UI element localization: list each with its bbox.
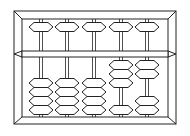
abacus-beads — [29, 23, 159, 115]
bead-lower-down-rod-3 — [82, 97, 106, 106]
bead-lower-up-rod-4 — [109, 79, 133, 88]
bead-upper-rod-5 — [135, 23, 159, 32]
bead-lower-up-rod-4 — [109, 70, 133, 79]
abacus-drawing — [0, 0, 190, 136]
bead-lower-down-rod-2 — [55, 97, 79, 106]
bead-lower-down-rod-4 — [109, 106, 133, 115]
bead-upper-rod-3 — [82, 23, 106, 32]
bead-lower-up-rod-5 — [135, 61, 159, 70]
bead-lower-down-rod-1 — [29, 79, 53, 88]
bead-lower-down-rod-1 — [29, 106, 53, 115]
bead-lower-down-rod-3 — [82, 88, 106, 97]
bead-upper-rod-2 — [55, 23, 79, 32]
bead-lower-down-rod-2 — [55, 79, 79, 88]
abacus-diagram — [0, 0, 190, 136]
bead-lower-down-rod-5 — [135, 106, 159, 115]
bead-lower-down-rod-1 — [29, 97, 53, 106]
bead-lower-up-rod-5 — [135, 70, 159, 79]
bead-upper-rod-1 — [29, 23, 53, 32]
bead-lower-down-rod-3 — [82, 79, 106, 88]
bead-lower-down-rod-2 — [55, 106, 79, 115]
bead-lower-down-rod-1 — [29, 88, 53, 97]
divider-beam — [14, 51, 176, 57]
bead-lower-down-rod-5 — [135, 97, 159, 106]
bead-lower-down-rod-2 — [55, 88, 79, 97]
bead-lower-up-rod-4 — [109, 61, 133, 70]
bead-lower-down-rod-3 — [82, 106, 106, 115]
bead-upper-rod-4 — [109, 23, 133, 32]
